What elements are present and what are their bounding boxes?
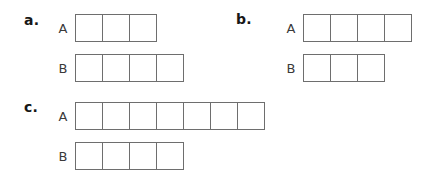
tape-cell (102, 54, 130, 82)
bar-row: B (55, 54, 184, 82)
bar-label-b-row-a: A (283, 22, 299, 35)
bar-label-a-row-b: B (55, 62, 71, 75)
panel-b-label: b. (236, 12, 252, 26)
tape-cell (75, 14, 103, 42)
tape-cell (183, 102, 211, 130)
bar-row: B (283, 54, 412, 82)
bar-row: B (55, 142, 265, 170)
tape-a-row-b (75, 54, 184, 82)
tape-cell (384, 14, 412, 42)
tape-a-row-a (75, 14, 157, 42)
tape-cell (102, 102, 130, 130)
tape-cell (237, 102, 265, 130)
tape-cell (102, 142, 130, 170)
bar-row: A (55, 14, 184, 42)
panel-b-bars: A B (283, 14, 412, 82)
tape-cell (357, 54, 385, 82)
bar-label-a-row-a: A (55, 22, 71, 35)
panel-c-label: c. (24, 100, 38, 114)
panel-c-bars: A B (55, 102, 265, 170)
bar-label-b-row-b: B (283, 62, 299, 75)
tape-cell (210, 102, 238, 130)
tape-cell (75, 102, 103, 130)
tape-cell (156, 102, 184, 130)
tape-cell (102, 14, 130, 42)
tape-cell (303, 54, 331, 82)
tape-cell (156, 54, 184, 82)
tape-cell (330, 54, 358, 82)
tape-c-row-a (75, 102, 265, 130)
tape-cell (303, 14, 331, 42)
tape-cell (156, 142, 184, 170)
tape-cell (129, 14, 157, 42)
bar-label-c-row-a: A (55, 110, 71, 123)
tape-c-row-b (75, 142, 184, 170)
tape-cell (129, 102, 157, 130)
tape-cell (129, 142, 157, 170)
tape-cell (357, 14, 385, 42)
tape-cell (75, 54, 103, 82)
panel-a-label: a. (24, 13, 39, 27)
bar-label-c-row-b: B (55, 150, 71, 163)
tape-b-row-b (303, 54, 385, 82)
panel-a-bars: A B (55, 14, 184, 82)
tape-cell (330, 14, 358, 42)
bar-row: A (283, 14, 412, 42)
bar-row: A (55, 102, 265, 130)
tape-cell (129, 54, 157, 82)
tape-b-row-a (303, 14, 412, 42)
tape-cell (75, 142, 103, 170)
